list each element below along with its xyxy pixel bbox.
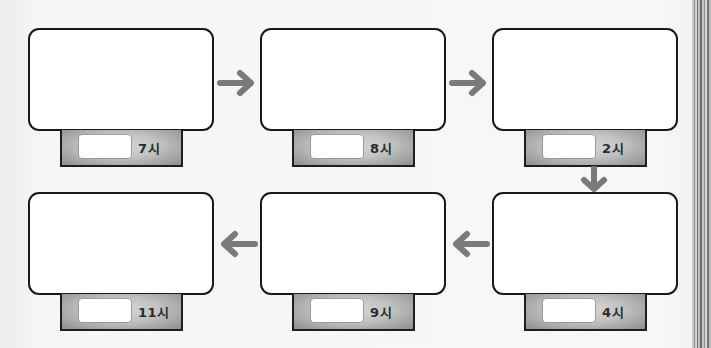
answer-blank-step-5[interactable] [310,298,364,323]
arrow-right-icon [217,68,257,98]
time-label-step-1: 7시 [138,138,160,157]
time-tab-step-6: 11시 [60,294,183,331]
answer-blank-step-6[interactable] [78,298,132,323]
time-tab-step-5: 9시 [292,294,415,331]
time-label-step-2: 8시 [370,138,392,157]
time-label-step-4: 4시 [602,302,624,321]
time-label-step-3: 2시 [602,138,624,157]
page-edge-stripes [692,0,711,348]
answer-blank-step-1[interactable] [78,134,132,159]
picture-frame-step-6[interactable] [28,192,214,295]
time-tab-step-3: 2시 [524,130,647,167]
time-label-step-6: 11시 [138,302,170,321]
picture-frame-step-5[interactable] [260,192,446,295]
time-tab-step-2: 8시 [292,130,415,167]
picture-frame-step-4[interactable] [492,192,678,295]
answer-blank-step-4[interactable] [542,298,596,323]
arrow-down-icon [579,166,609,194]
arrow-right-icon [449,68,489,98]
time-label-step-5: 9시 [370,302,392,321]
picture-frame-step-2[interactable] [260,28,446,131]
arrow-left-icon [218,229,258,259]
picture-frame-step-1[interactable] [28,28,214,131]
answer-blank-step-2[interactable] [310,134,364,159]
time-tab-step-4: 4시 [524,294,647,331]
arrow-left-icon [450,229,490,259]
time-tab-step-1: 7시 [60,130,183,167]
answer-blank-step-3[interactable] [542,134,596,159]
picture-frame-step-3[interactable] [492,28,678,131]
